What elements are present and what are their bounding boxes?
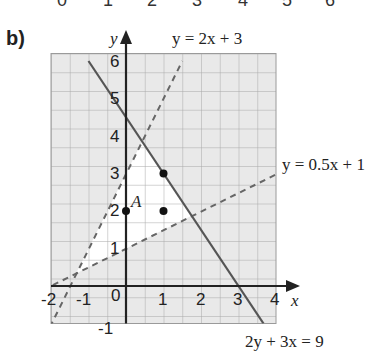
grid-area	[51, 54, 276, 324]
tick-y-neg1: -1	[98, 319, 113, 338]
label-line-y-2x-plus-3: y = 2x + 3	[172, 29, 242, 48]
label-line-2y-plus-3x-eq-9: 2y + 3x = 9	[245, 332, 324, 351]
point-1-3	[160, 170, 168, 178]
y-axis-label: y	[108, 29, 118, 48]
tick-y-3: 3	[110, 164, 119, 183]
y-axis-arrow-icon	[120, 30, 132, 44]
tick-y-6: 6	[110, 52, 119, 71]
tick-x-1: 1	[158, 290, 167, 309]
point-a	[122, 207, 130, 215]
tick-y-2: 2	[110, 201, 119, 220]
tick-x-3: 3	[233, 290, 242, 309]
label-line-y-half-x-plus-1: y = 0.5x + 1	[282, 155, 365, 174]
x-axis-label: x	[290, 291, 299, 310]
tick-x-4: 4	[270, 290, 279, 309]
tick-x-neg2: -2	[41, 290, 56, 309]
tick-x-2: 2	[196, 290, 205, 309]
point-1-2	[160, 207, 168, 215]
tick-origin: 0	[111, 286, 120, 305]
graph: y x -2 -1 0 1 2 3 4 -1 1 2 3 4 5 6 A y =…	[0, 0, 378, 355]
tick-y-4: 4	[110, 127, 119, 146]
point-a-label: A	[130, 192, 142, 211]
tick-y-5: 5	[110, 89, 119, 108]
tick-x-neg1: -1	[76, 290, 91, 309]
tick-y-1: 1	[110, 239, 119, 258]
